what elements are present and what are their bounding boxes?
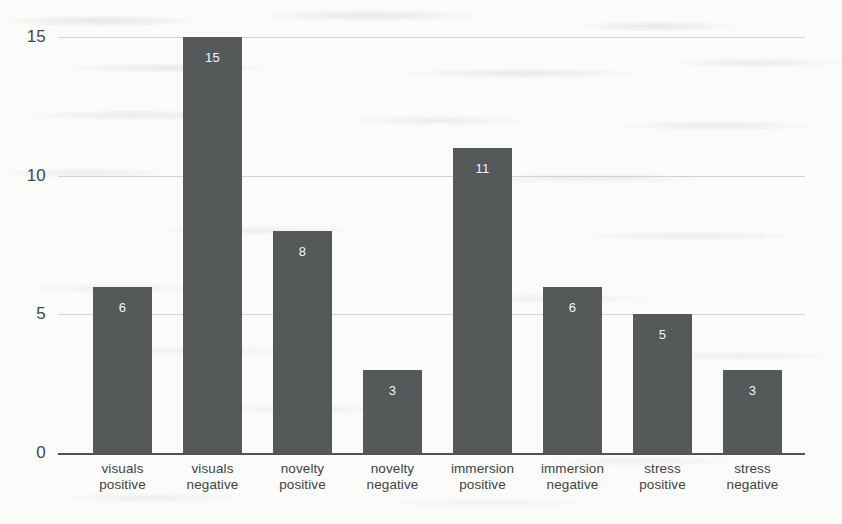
x-axis-category-label-line: visuals [80,461,165,477]
bar-value-label: 3 [363,384,422,397]
x-axis-category-label: visualspositive [80,461,165,493]
gridline-y-15 [58,37,805,38]
x-axis-category-label-line: positive [260,477,345,493]
x-axis-category-label-line: negative [350,477,435,493]
x-axis-category-label-line: stress [620,461,705,477]
gridline-y-5 [58,314,805,315]
bar[interactable] [273,231,332,453]
chart-page: 0510156visualspositive15visualsnegative8… [0,0,842,524]
bar-value-label: 3 [723,384,782,397]
x-axis-category-label: noveltynegative [350,461,435,493]
bar-value-label: 6 [543,301,602,314]
y-axis-tick-label-5: 5 [4,305,46,322]
x-axis-category-label-line: visuals [170,461,255,477]
x-axis-category-label-line: positive [80,477,165,493]
x-axis-category-label-line: negative [530,477,615,493]
y-axis-tick-label-0: 0 [4,444,46,461]
x-axis-category-label: immersionpositive [440,461,525,493]
bar-value-label: 5 [633,328,692,341]
y-axis-tick-label-15: 15 [4,28,46,45]
bar-value-label: 15 [183,51,242,64]
bar-value-label: 8 [273,245,332,258]
x-axis-category-label-line: positive [620,477,705,493]
x-axis-category-label: immersionnegative [530,461,615,493]
x-axis-category-label: noveltypositive [260,461,345,493]
x-axis-category-label-line: negative [170,477,255,493]
x-axis-category-label-line: negative [710,477,795,493]
bar-value-label: 11 [453,162,512,175]
bar[interactable] [453,148,512,453]
x-axis-category-label: stressnegative [710,461,795,493]
x-axis-category-label-line: stress [710,461,795,477]
x-axis-category-label-line: immersion [440,461,525,477]
x-axis-category-label-line: novelty [350,461,435,477]
gridline-y-10 [58,176,805,177]
y-axis-tick-label-10: 10 [4,167,46,184]
x-axis-baseline [58,453,805,455]
x-axis-category-label-line: novelty [260,461,345,477]
bar-value-label: 6 [93,301,152,314]
bar-chart-plot-area: 0510156visualspositive15visualsnegative8… [0,0,842,524]
x-axis-category-label-line: immersion [530,461,615,477]
x-axis-category-label: stresspositive [620,461,705,493]
bar[interactable] [183,37,242,453]
x-axis-category-label: visualsnegative [170,461,255,493]
x-axis-category-label-line: positive [440,477,525,493]
